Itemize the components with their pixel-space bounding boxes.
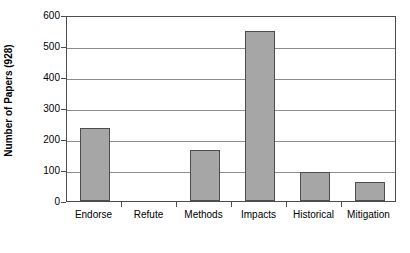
bar-mitigation [355,182,385,201]
gridline [67,110,395,111]
x-tick-label-impacts: Impacts [231,208,286,222]
x-tick-label-refute: Refute [121,208,176,222]
x-tick-label-methods: Methods [176,208,231,222]
y-tick-label: 300 [34,104,60,114]
x-tick-mark [176,202,177,207]
y-axis-title: Number of Papers (928) [2,0,16,201]
x-tick-label-endorse: Endorse [66,208,121,222]
x-tick-mark [231,202,232,207]
x-axis-tick-marks [66,202,396,207]
x-tick-mark [286,202,287,207]
x-tick-label-mitigation: Mitigation [341,208,396,222]
x-tick-mark [341,202,342,207]
x-tick-mark [121,202,122,207]
y-tick-label: 200 [34,135,60,145]
y-tick-label: 600 [34,11,60,21]
x-tick-label-historical: Historical [286,208,341,222]
y-tick-label: 500 [34,42,60,52]
y-tick-label: 400 [34,73,60,83]
gridline [67,79,395,80]
bar-impacts [245,31,275,202]
y-tick-label: 100 [34,166,60,176]
x-axis-tick-labels: EndorseRefuteMethodsImpactsHistoricalMit… [66,208,396,224]
gridline [67,172,395,173]
bar-chart-figure: Number of Papers (928) 01002003004005006… [0,0,410,253]
bar-historical [300,172,330,201]
y-tick-label: 0 [34,197,60,207]
plot-area [66,16,396,202]
bar-endorse [80,128,110,201]
gridline [67,48,395,49]
bar-methods [190,150,220,201]
y-axis-tick-labels: 0100200300400500600 [32,16,60,202]
gridline [67,141,395,142]
